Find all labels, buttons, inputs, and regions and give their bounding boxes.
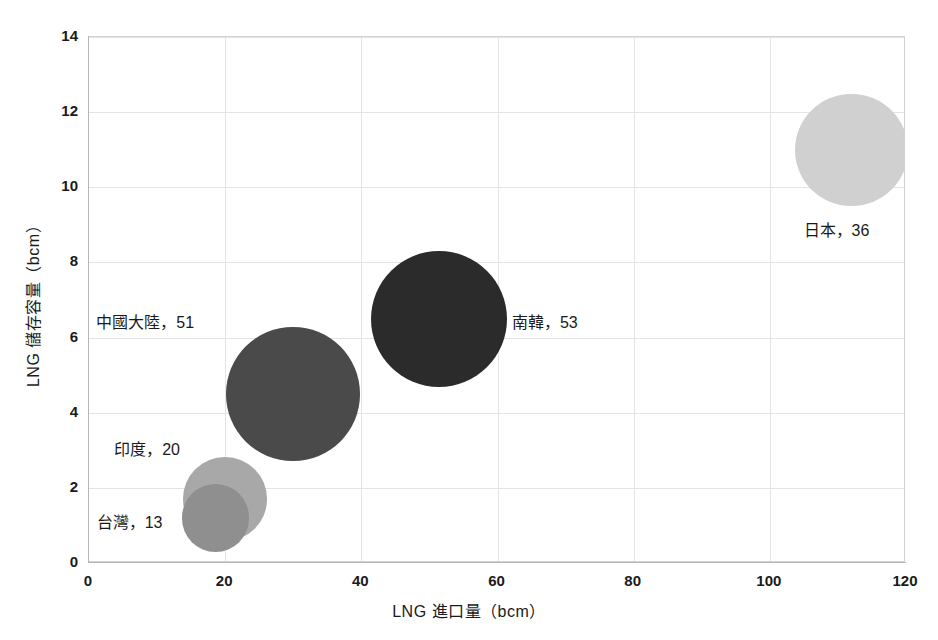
gridline-vertical: [770, 37, 771, 561]
y-tick-label: 14: [36, 27, 78, 44]
gridline-vertical: [361, 37, 362, 561]
bubble-china[interactable]: [226, 327, 360, 461]
plot-area: [88, 36, 905, 562]
x-axis-line: [88, 562, 906, 563]
x-tick-label: 120: [875, 572, 935, 589]
y-tick-label: 2: [36, 478, 78, 495]
data-label-china: 中國大陸，51: [96, 309, 194, 333]
gridline-horizontal: [89, 262, 904, 263]
gridline-horizontal: [89, 187, 904, 188]
y-axis-line: [88, 36, 89, 563]
x-tick-label: 60: [467, 572, 527, 589]
data-label-india: 印度，20: [114, 436, 180, 460]
gridline-horizontal: [89, 413, 904, 414]
gridline-horizontal: [89, 37, 904, 38]
gridline-vertical: [634, 37, 635, 561]
x-tick-label: 20: [194, 572, 254, 589]
y-tick-label: 12: [36, 102, 78, 119]
bubble-taiwan[interactable]: [182, 484, 249, 551]
gridline-horizontal: [89, 112, 904, 113]
data-label-south-korea: 南韓，53: [512, 309, 578, 333]
bubble-south-korea[interactable]: [371, 251, 507, 387]
x-axis-title: LNG 進口量（bcm）: [0, 598, 938, 622]
data-label-taiwan: 台灣，13: [97, 509, 163, 533]
x-tick-label: 40: [330, 572, 390, 589]
bubble-chart: 02468101214 020406080100120 台灣，13印度，20中國…: [0, 0, 938, 640]
x-tick-label: 80: [603, 572, 663, 589]
y-axis-title: LNG 儲存容量（bcm）: [20, 162, 44, 442]
y-tick-label: 0: [36, 553, 78, 570]
x-tick-label: 100: [739, 572, 799, 589]
data-label-japan: 日本，36: [804, 217, 870, 241]
x-tick-label: 0: [58, 572, 118, 589]
bubble-japan[interactable]: [795, 94, 905, 206]
